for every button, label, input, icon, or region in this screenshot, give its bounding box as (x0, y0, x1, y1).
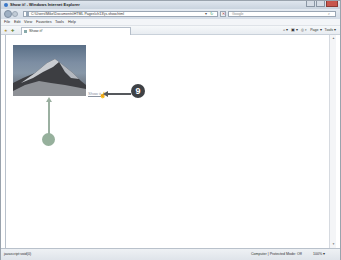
add-favorite-icon[interactable]: ✚ (11, 28, 14, 33)
browser-window: Show it! - Windows Internet Explorer C:\… (0, 0, 341, 260)
zoom-level[interactable]: 100% ▾ (313, 252, 325, 256)
favorites-star-icon[interactable]: ★ (4, 28, 8, 33)
navigation-bar: C:\Users\Mike\Documents\HTML Pages\ch13\… (1, 9, 340, 19)
refresh-icon[interactable]: ↻ (210, 12, 213, 16)
back-button[interactable] (4, 10, 12, 18)
search-input[interactable]: Google ⌕ (228, 11, 336, 17)
window-title: Show it! - Windows Internet Explorer (10, 2, 80, 7)
search-icon[interactable]: ⌕ (328, 12, 330, 16)
callout-line-vertical (48, 102, 50, 134)
menu-file[interactable]: File (4, 20, 10, 24)
maximize-button[interactable] (316, 1, 325, 7)
search-placeholder: Google (232, 12, 244, 16)
page-icon (26, 12, 29, 16)
print-button[interactable]: ⎙ ▾ (301, 28, 307, 32)
callout-dot (42, 133, 55, 146)
forward-button[interactable] (12, 11, 18, 17)
menu-favorites[interactable]: Favorites (36, 20, 52, 24)
callout-badge: 9 (131, 84, 145, 98)
close-button[interactable] (326, 1, 338, 7)
menu-tools[interactable]: Tools (55, 20, 64, 24)
tab-page-icon (24, 30, 27, 33)
menu-view[interactable]: View (24, 20, 32, 24)
security-zone: Computer | Protected Mode: Off (251, 252, 302, 256)
tab-show-it[interactable]: Show it! (21, 27, 131, 35)
favorites-bar: ★ ✚ Show it! ⌂ ▾ ▣ ▾ ⎙ ▾ Page ▾ Tools ▾ (1, 26, 340, 35)
page-menu-button[interactable]: Page ▾ (310, 28, 321, 32)
status-bar: javascript:void(0) Computer | Protected … (1, 248, 340, 260)
tools-menu-button[interactable]: Tools ▾ (325, 28, 336, 32)
mountain-illustration (13, 45, 86, 96)
home-button[interactable]: ⌂ ▾ (283, 28, 288, 32)
address-url[interactable]: C:\Users\Mike\Documents\HTML Pages\ch13\… (31, 12, 124, 16)
title-bar: Show it! - Windows Internet Explorer (1, 1, 340, 9)
address-bar[interactable]: C:\Users\Mike\Documents\HTML Pages\ch13\… (23, 11, 218, 17)
vertical-scrollbar[interactable]: ▲ ▼ (329, 35, 336, 248)
menu-help[interactable]: Help (68, 20, 76, 24)
menu-edit[interactable]: Edit (14, 20, 21, 24)
scroll-up-icon[interactable]: ▲ (331, 36, 336, 41)
mountain-image (13, 45, 86, 96)
address-dropdown-icon[interactable]: ▾ (205, 12, 207, 16)
callout-line (107, 93, 131, 95)
window-controls (305, 1, 338, 7)
minimize-button[interactable] (306, 1, 315, 7)
menu-bar: File Edit View Favorites Tools Help (1, 19, 340, 26)
feeds-button[interactable]: ▣ ▾ (291, 28, 298, 32)
ie-logo-icon (4, 3, 8, 7)
scroll-down-icon[interactable]: ▼ (331, 242, 336, 247)
status-text: javascript:void(0) (4, 252, 31, 256)
stop-button[interactable]: ✕ (220, 11, 226, 17)
tab-label: Show it! (29, 29, 43, 33)
command-bar: ⌂ ▾ ▣ ▾ ⎙ ▾ Page ▾ Tools ▾ (283, 28, 336, 32)
